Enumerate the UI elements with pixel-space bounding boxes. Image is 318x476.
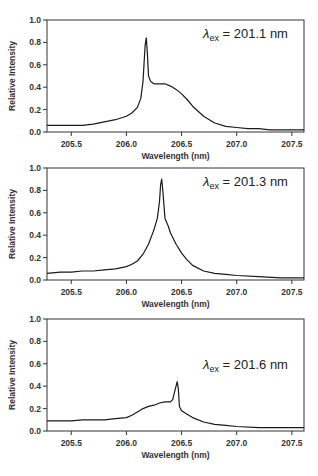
y-tick-label: 0.2 — [29, 404, 41, 414]
plot-frame — [47, 319, 304, 431]
x-tick-label: 207.5 — [281, 287, 303, 297]
y-tick-label: 0.6 — [29, 60, 41, 70]
y-tick-label: 0.4 — [29, 82, 41, 92]
y-tick-label: 1.0 — [29, 15, 41, 25]
x-tick-label: 205.5 — [61, 139, 83, 149]
x-tick-label: 207.0 — [226, 287, 248, 297]
y-tick-label: 0.6 — [29, 359, 41, 369]
spectrum-line — [47, 382, 304, 428]
x-tick-label: 206.0 — [116, 139, 138, 149]
x-tick-label: 207.5 — [281, 438, 303, 448]
x-axis-title: Wavelength (nm) — [141, 151, 209, 161]
x-tick-label: 205.5 — [61, 438, 83, 448]
excitation-wavelength-label: λex = 201.6 nm — [202, 357, 288, 374]
y-tick-label: 0.0 — [29, 127, 41, 137]
y-tick-label: 0.0 — [29, 426, 41, 436]
y-tick-label: 0.4 — [29, 381, 41, 391]
figure: 0.00.20.40.60.81.0205.5206.0206.5207.020… — [0, 0, 318, 476]
y-tick-label: 0.8 — [29, 37, 41, 47]
x-axis-title: Wavelength (nm) — [141, 450, 209, 460]
x-tick-label: 207.5 — [281, 139, 303, 149]
panel-lambda-201-1: 0.00.20.40.60.81.0205.5206.0206.5207.020… — [7, 15, 304, 161]
excitation-wavelength-label: λex = 201.1 nm — [202, 26, 288, 43]
y-tick-label: 1.0 — [29, 163, 41, 173]
y-tick-label: 0.2 — [29, 105, 41, 115]
spectrum-line — [47, 38, 304, 130]
panel-lambda-201-3: 0.00.20.40.60.81.0205.5206.0206.5207.020… — [7, 163, 304, 309]
y-tick-label: 0.8 — [29, 336, 41, 346]
x-tick-label: 206.0 — [116, 438, 138, 448]
x-tick-label: 205.5 — [61, 287, 83, 297]
x-axis-title: Wavelength (nm) — [141, 299, 209, 309]
y-tick-label: 0.2 — [29, 253, 41, 263]
y-axis-title: Relative Intensity — [7, 340, 17, 410]
x-tick-label: 206.0 — [116, 287, 138, 297]
y-tick-label: 0.0 — [29, 275, 41, 285]
x-tick-label: 206.5 — [171, 287, 193, 297]
x-tick-label: 206.5 — [171, 438, 193, 448]
x-tick-label: 207.0 — [226, 438, 248, 448]
y-axis-title: Relative Intensity — [7, 41, 17, 111]
y-tick-label: 1.0 — [29, 314, 41, 324]
excitation-wavelength-label: λex = 201.3 nm — [202, 174, 288, 191]
y-tick-label: 0.6 — [29, 208, 41, 218]
x-tick-label: 207.0 — [226, 139, 248, 149]
y-tick-label: 0.8 — [29, 185, 41, 195]
panel-lambda-201-6: 0.00.20.40.60.81.0205.5206.0206.5207.020… — [7, 314, 304, 460]
y-tick-label: 0.4 — [29, 230, 41, 240]
x-tick-label: 206.5 — [171, 139, 193, 149]
spectrum-line — [47, 179, 304, 278]
y-axis-title: Relative Intensity — [7, 189, 17, 259]
